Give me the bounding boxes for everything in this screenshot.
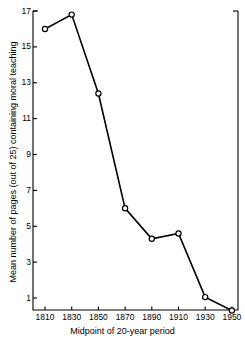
line-chart: 17 15 13 11 9 7 5 3 1 1810 1830 1850 187… [0,0,245,341]
x-tick-label: 1910 [164,312,194,322]
x-tick-label: 1830 [57,312,87,322]
x-tick-label: 1950 [217,312,245,322]
data-point [42,26,47,31]
plot-area [0,0,245,341]
x-axis-tick-labels: 1810 1830 1850 1870 1890 1910 1930 1950 [0,312,245,326]
series-line [45,15,232,311]
x-tick-label: 1890 [137,312,167,322]
y-axis-title: Mean number of pages (out of 25) contain… [8,12,18,312]
x-axis-title: Midpoint of 20-year period [0,326,245,336]
data-point [203,295,208,300]
axis-frame [33,11,238,310]
x-tick-label: 1850 [83,312,113,322]
series-markers [42,12,234,313]
x-tick-label: 1810 [30,312,60,322]
data-point [123,206,128,211]
y-axis-ticks [33,11,37,298]
data-point [176,231,181,236]
x-tick-label: 1930 [190,312,220,322]
x-tick-label: 1870 [110,312,140,322]
data-point [69,12,74,17]
data-point [149,236,154,241]
data-point [96,91,101,96]
